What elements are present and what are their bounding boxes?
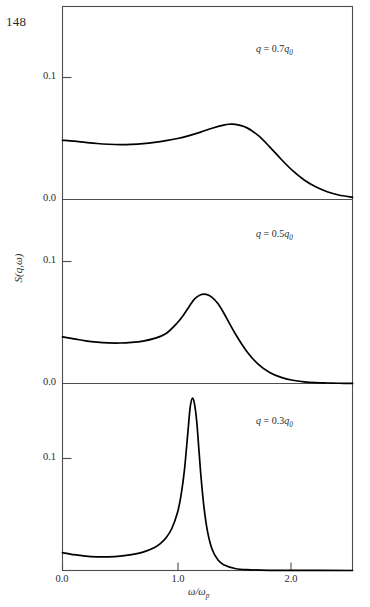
y-tick-label-panel1-0.1: 0.1: [22, 70, 56, 81]
curve-q-0-5q0: [63, 294, 353, 383]
x-axis-label-subscript: p: [206, 592, 210, 600]
y-axis-label: S(q,ω): [12, 238, 24, 298]
y-tick-label-panel3-0.1: 0.1: [22, 451, 56, 462]
annot-eq-1: = 0.7: [261, 43, 284, 54]
annot-q0-sub-3: 0: [289, 421, 293, 429]
annot-q0-sub-1: 0: [289, 49, 293, 57]
data-curves: [63, 124, 353, 570]
annot-q0-sub-2: 0: [289, 234, 293, 242]
plot-canvas: [0, 0, 370, 607]
y-tick-label-panel2-0.0: 0.0: [22, 376, 56, 387]
curve-q-0-7q0: [63, 124, 353, 197]
annot-eq-2: = 0.5: [261, 228, 284, 239]
curve-q-0-3q0: [63, 398, 353, 570]
x-tick-label-1: 1.0: [158, 573, 198, 584]
y-tick-label-panel1-0.0: 0.0: [22, 192, 56, 203]
panel-annotation-q05: q = 0.5q0: [256, 228, 293, 242]
x-axis-label-main: ω/ω: [188, 586, 206, 597]
figure-root: 148 S(q,ω) ω/ωp 0.1 0.0 0.1 0.0 0.1: [0, 0, 370, 607]
panel-annotation-q07: q = 0.7q0: [256, 43, 293, 57]
plot-frame: [63, 7, 353, 571]
y-tick-label-panel2-0.1: 0.1: [22, 254, 56, 265]
x-axis-label: ω/ωp: [188, 586, 209, 600]
panel-annotation-q03: q = 0.3q0: [256, 415, 293, 429]
x-tick-label-2: 2.0: [271, 573, 311, 584]
x-tick-label-0: 0.0: [42, 573, 82, 584]
annot-eq-3: = 0.3: [261, 415, 284, 426]
y-tick-marks: [63, 78, 72, 459]
